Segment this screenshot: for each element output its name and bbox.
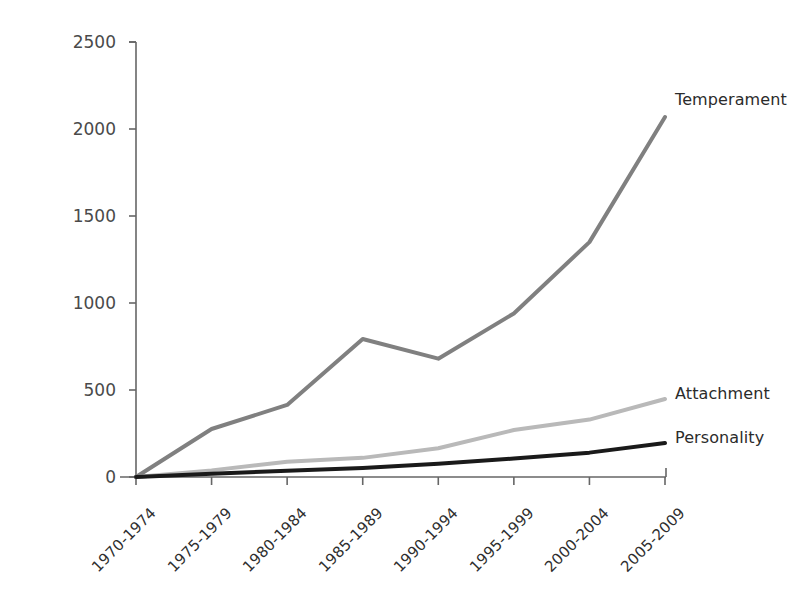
series-line-temperament [136, 117, 665, 477]
series-label-attachment: Attachment [675, 384, 770, 403]
axis-lines [120, 42, 666, 477]
y-tick-label: 1500 [50, 208, 116, 225]
series-lines [136, 117, 665, 477]
y-tick-label: 1000 [50, 295, 116, 312]
y-tick-label: 2500 [50, 34, 116, 51]
x-axis-ticks [136, 477, 665, 485]
series-label-temperament: Temperament [675, 90, 787, 109]
y-axis-ticks [129, 42, 136, 477]
series-line-personality [136, 443, 665, 477]
chart-page: Percent increase in publications (%) 050… [0, 0, 805, 613]
line-chart-figure: Percent increase in publications (%) 050… [0, 0, 805, 613]
y-tick-label: 500 [50, 382, 116, 399]
y-tick-label: 2000 [50, 121, 116, 138]
series-label-personality: Personality [675, 428, 764, 447]
y-tick-label: 0 [50, 469, 116, 486]
